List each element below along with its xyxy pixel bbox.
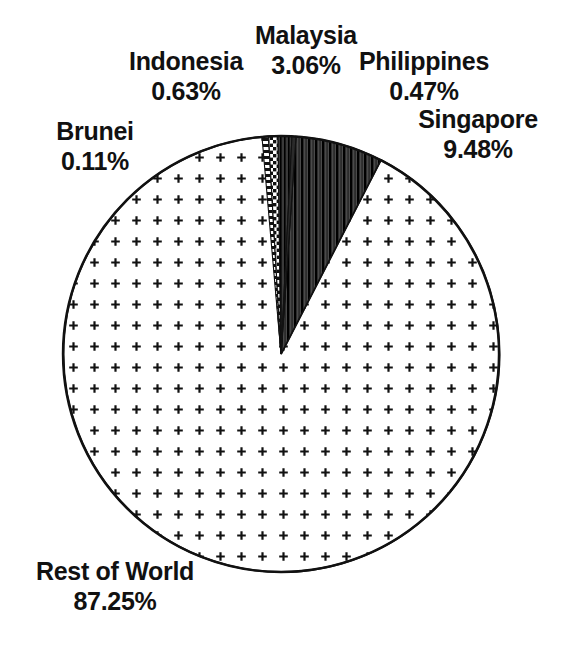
slice-label-philippines-name: Philippines [330, 46, 518, 76]
slice-label-brunei: Brunei 0.11% [30, 116, 160, 176]
slice-label-brunei-value: 0.11% [30, 146, 160, 176]
slice-label-rest-of-world-value: 87.25% [0, 586, 230, 616]
pie-chart-figure: Indonesia 0.63% Malaysia 3.06% Philippin… [0, 0, 572, 652]
slice-label-singapore: Singapore 9.48% [388, 104, 568, 164]
slice-label-rest-of-world-name: Rest of World [0, 556, 230, 586]
slice-label-philippines: Philippines 0.47% [330, 46, 518, 106]
slice-label-singapore-value: 9.48% [388, 134, 568, 164]
slice-label-indonesia-value: 0.63% [96, 76, 276, 106]
slice-label-rest-of-world: Rest of World 87.25% [0, 556, 230, 616]
slice-label-philippines-value: 0.47% [330, 76, 518, 106]
slice-label-brunei-name: Brunei [30, 116, 160, 146]
slice-label-singapore-name: Singapore [388, 104, 568, 134]
